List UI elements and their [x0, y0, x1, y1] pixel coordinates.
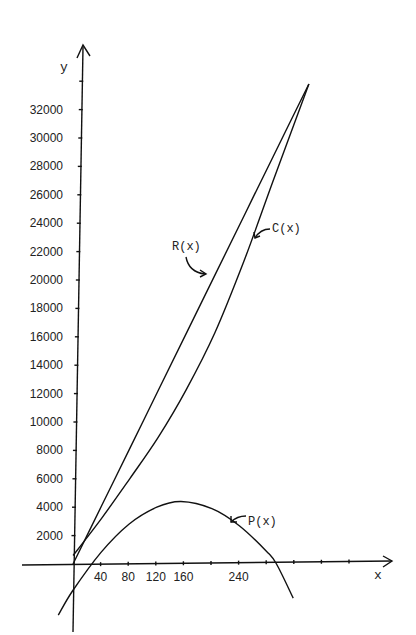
y-tick-label: 30000 — [30, 131, 64, 145]
annotation-P: P(x) — [231, 515, 277, 529]
y-tick-label: 32000 — [30, 103, 64, 117]
y-tick-label: 12000 — [30, 387, 64, 401]
y-tick-label: 6000 — [36, 472, 63, 486]
x-tick-label: 40 — [94, 570, 108, 584]
x-tick-label: 240 — [229, 570, 249, 584]
label-P: P(x) — [248, 515, 277, 529]
y-tick-label: 2000 — [36, 529, 63, 543]
revenue-curve-R — [73, 84, 309, 564]
x-axis-label: x — [374, 568, 382, 583]
x-tick-label: 160 — [173, 570, 193, 584]
x-axis: x — [22, 556, 392, 583]
y-tick-label: 18000 — [30, 301, 64, 315]
y-tick-label: 26000 — [30, 188, 64, 202]
y-tick-label: 10000 — [30, 415, 64, 429]
y-tick-label: 8000 — [36, 443, 63, 457]
y-tick-label: 28000 — [30, 159, 64, 173]
y-axis-label: y — [60, 60, 68, 75]
chart-canvas: y x 200040006000800010000120001400016000… — [0, 0, 416, 635]
label-C: C(x) — [272, 222, 301, 236]
y-tick-label: 20000 — [30, 273, 64, 287]
y-tick-label: 14000 — [30, 358, 64, 372]
y-axis: y — [60, 45, 90, 632]
x-tick-label: 120 — [146, 570, 166, 584]
label-R: R(x) — [172, 240, 201, 254]
y-tick-label: 24000 — [30, 216, 64, 230]
annotation-R: R(x) — [172, 240, 206, 277]
y-tick-label: 4000 — [36, 500, 63, 514]
annotation-C: C(x) — [254, 222, 301, 238]
x-tick-label: 80 — [122, 570, 136, 584]
y-tick-label: 16000 — [30, 330, 64, 344]
x-axis-line — [22, 561, 392, 565]
y-tick-label: 22000 — [30, 245, 64, 259]
